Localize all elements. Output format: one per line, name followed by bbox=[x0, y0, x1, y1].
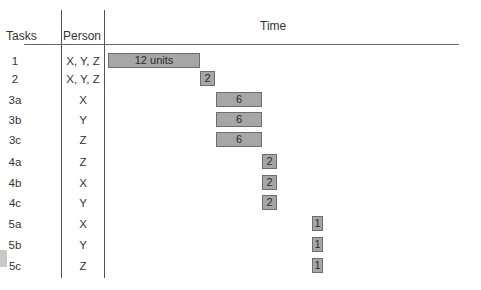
task-id: 4a bbox=[0, 155, 30, 169]
header-tasks: Tasks bbox=[6, 29, 37, 43]
task-bar: 1 bbox=[312, 237, 323, 252]
task-id: 3a bbox=[0, 93, 30, 107]
column-divider-person-time bbox=[104, 10, 105, 278]
task-id: 5a bbox=[0, 217, 30, 231]
header-person: Person bbox=[63, 29, 101, 43]
task-bar: 12 units bbox=[108, 53, 200, 68]
task-id: 2 bbox=[0, 72, 30, 86]
task-id: 5c bbox=[0, 259, 30, 273]
task-person: X bbox=[62, 93, 104, 107]
task-person: Y bbox=[62, 238, 104, 252]
task-person: X, Y, Z bbox=[62, 72, 104, 86]
task-bar: 6 bbox=[216, 132, 262, 147]
task-person: Z bbox=[62, 133, 104, 147]
task-person: Y bbox=[62, 113, 104, 127]
task-id: 5b bbox=[0, 238, 30, 252]
task-person: Y bbox=[62, 196, 104, 210]
task-bar: 6 bbox=[216, 112, 262, 127]
task-person: X, Y, Z bbox=[62, 54, 104, 68]
task-id: 4b bbox=[0, 176, 30, 190]
task-bar: 1 bbox=[312, 258, 323, 273]
task-bar: 2 bbox=[200, 71, 215, 86]
task-person: X bbox=[62, 176, 104, 190]
task-bar: 2 bbox=[262, 154, 277, 169]
header-time: Time bbox=[260, 19, 286, 33]
task-bar: 2 bbox=[262, 175, 277, 190]
task-id: 3c bbox=[0, 133, 30, 147]
task-person: Z bbox=[62, 155, 104, 169]
task-bar: 1 bbox=[312, 216, 323, 231]
task-id: 3b bbox=[0, 113, 30, 127]
task-bar: 2 bbox=[262, 195, 277, 210]
task-bar: 6 bbox=[216, 92, 262, 107]
header-underline bbox=[24, 44, 459, 45]
task-id: 4c bbox=[0, 196, 30, 210]
task-id: 1 bbox=[0, 54, 30, 68]
task-person: X bbox=[62, 217, 104, 231]
task-person: Z bbox=[62, 259, 104, 273]
